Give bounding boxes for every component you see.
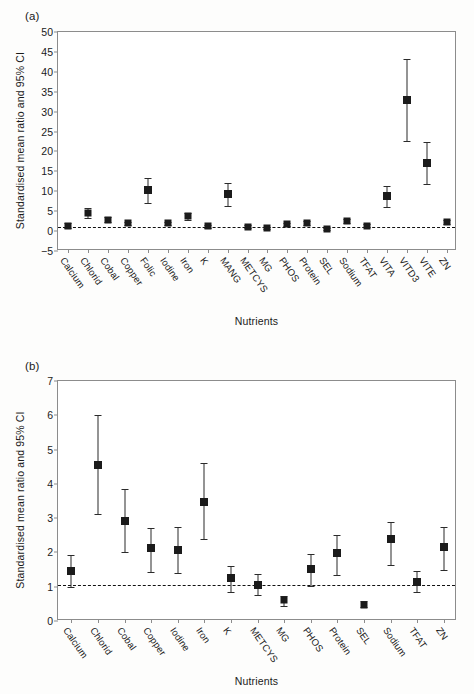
- data-point-marker: [344, 218, 351, 225]
- x-tick-mark: [71, 619, 72, 623]
- x-tick-mark: [228, 249, 229, 253]
- y-tick-mark: [54, 251, 58, 252]
- error-bar-cap: [94, 514, 101, 515]
- x-tick-label: SEL: [354, 625, 374, 646]
- x-tick-mark: [188, 249, 189, 253]
- y-tick-mark: [54, 211, 58, 212]
- x-tick-label: SEL: [317, 255, 337, 276]
- data-point-marker: [147, 544, 155, 552]
- x-tick-mark: [311, 619, 312, 623]
- x-tick-mark: [447, 249, 448, 253]
- data-point-marker: [364, 222, 371, 229]
- x-tick-label: ZN: [434, 625, 450, 642]
- x-tick-label: K: [198, 255, 211, 267]
- data-point-marker: [254, 581, 262, 589]
- x-tick-mark: [88, 249, 89, 253]
- error-bar-cap: [121, 489, 128, 490]
- panel-a: (a) Standardised mean ratio and 95% CI −…: [0, 0, 474, 346]
- error-bar-cap: [148, 528, 155, 529]
- data-point-marker: [281, 597, 288, 604]
- data-point-marker: [413, 578, 421, 586]
- x-tick-mark: [151, 619, 152, 623]
- error-bar-cap: [254, 574, 261, 575]
- y-tick-mark: [54, 71, 58, 72]
- error-bar-cap: [404, 59, 411, 60]
- error-bar-cap: [307, 586, 314, 587]
- error-bar-cap: [174, 573, 181, 574]
- x-tick-mark: [284, 619, 285, 623]
- data-point-marker: [444, 218, 451, 225]
- data-point-marker: [64, 222, 71, 229]
- x-tick-mark: [128, 249, 129, 253]
- x-tick-mark: [347, 249, 348, 253]
- error-bar: [390, 522, 391, 566]
- error-bar-cap: [404, 141, 411, 142]
- error-bar-cap: [224, 206, 231, 207]
- error-bar-cap: [144, 178, 151, 179]
- x-tick-label: MG: [257, 255, 275, 274]
- x-tick-mark: [125, 619, 126, 623]
- error-bar-cap: [201, 539, 208, 540]
- x-tick-label: ZN: [437, 255, 453, 272]
- data-point-marker: [200, 498, 208, 506]
- data-point-marker: [333, 549, 341, 557]
- error-bar-cap: [121, 552, 128, 553]
- data-point-marker: [423, 159, 431, 167]
- x-tick-mark: [364, 619, 365, 623]
- data-point-marker: [94, 461, 102, 469]
- y-tick-mark: [54, 32, 58, 33]
- error-bar-cap: [94, 415, 101, 416]
- x-tick-mark: [391, 619, 392, 623]
- error-bar-cap: [281, 606, 288, 607]
- x-tick-mark: [307, 249, 308, 253]
- panel-b-y-axis-title: Standardised mean ratio and 95% CI: [14, 380, 26, 620]
- error-bar-cap: [227, 566, 234, 567]
- data-point-marker: [244, 223, 251, 230]
- y-tick-mark: [54, 111, 58, 112]
- x-tick-mark: [98, 619, 99, 623]
- error-bar-cap: [174, 527, 181, 528]
- y-tick-mark: [54, 586, 58, 587]
- error-bar-cap: [334, 575, 341, 576]
- x-tick-mark: [178, 619, 179, 623]
- data-point-marker: [67, 567, 75, 575]
- x-tick-label: Calcium: [61, 625, 90, 660]
- panel-b-plot-area: 01234567CalciumChloridCobalCopperIodineI…: [57, 380, 456, 620]
- y-tick-mark: [54, 191, 58, 192]
- x-tick-label: Sodium: [380, 625, 408, 658]
- x-tick-label: Iodine: [168, 625, 192, 653]
- x-tick-label: Iron: [178, 255, 197, 275]
- data-point-marker: [383, 192, 391, 200]
- x-tick-label: Copper: [141, 625, 168, 658]
- panel-a-tag: (a): [25, 10, 39, 22]
- x-tick-label: TFAT: [407, 625, 429, 650]
- data-point-marker: [224, 190, 232, 198]
- x-tick-mark: [267, 249, 268, 253]
- x-tick-mark: [417, 619, 418, 623]
- data-point-marker: [403, 96, 411, 104]
- y-tick-mark: [54, 151, 58, 152]
- y-tick-mark: [54, 621, 58, 622]
- x-tick-label: PHOS: [301, 625, 326, 654]
- error-bar-cap: [254, 595, 261, 596]
- error-bar-cap: [307, 554, 314, 555]
- error-bar-cap: [424, 184, 431, 185]
- x-tick-label: K: [221, 625, 234, 637]
- error-bar-cap: [424, 142, 431, 143]
- x-tick-mark: [231, 619, 232, 623]
- panel-a-x-axis-title: Nutrients: [57, 315, 456, 327]
- y-tick-mark: [54, 483, 58, 484]
- x-tick-mark: [444, 619, 445, 623]
- error-bar-cap: [387, 522, 394, 523]
- data-point-marker: [121, 517, 129, 525]
- x-tick-mark: [337, 619, 338, 623]
- y-tick-mark: [54, 171, 58, 172]
- data-point-marker: [304, 220, 311, 227]
- x-tick-mark: [367, 249, 368, 253]
- data-point-marker: [164, 220, 171, 227]
- y-tick-mark: [54, 415, 58, 416]
- error-bar-cap: [414, 592, 421, 593]
- y-tick-mark: [54, 518, 58, 519]
- error-bar-cap: [387, 565, 394, 566]
- error-bar-cap: [384, 186, 391, 187]
